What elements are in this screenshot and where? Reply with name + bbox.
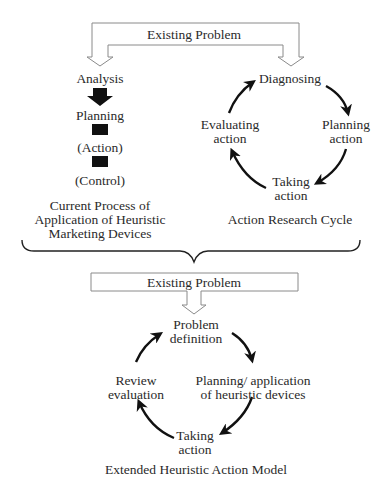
- step-action: (Action): [77, 141, 123, 155]
- arrow-diagnosing-to-planning: [326, 86, 348, 113]
- node-diagnosing: Diagnosing: [259, 72, 321, 86]
- arrow-taking-to-evaluating: [232, 151, 266, 188]
- node-evaluating-action-line2: action: [214, 132, 247, 146]
- node-planning-action-line1: Planning: [322, 118, 370, 132]
- action-research-cycle-caption: Action Research Cycle: [228, 213, 352, 227]
- arrow-planning-to-taking: [222, 397, 252, 433]
- step-control: (Control): [75, 174, 125, 188]
- node-problem-definition-line2: definition: [170, 332, 223, 346]
- step-planning: Planning: [76, 109, 124, 123]
- curly-brace: [22, 240, 360, 262]
- node-taking-action-line2-bottom: action: [179, 443, 212, 457]
- arrow-evaluating-to-diagnosing: [229, 82, 253, 113]
- arrow-taking-to-review: [139, 402, 174, 438]
- current-process-caption-line2: Application of Heuristic: [34, 213, 165, 227]
- existing-problem-label-top: Existing Problem: [147, 28, 241, 42]
- node-taking-action-line1: Taking: [272, 175, 309, 189]
- node-planning-application-line1: Planning/ application: [195, 374, 310, 388]
- step-analysis: Analysis: [76, 72, 123, 86]
- node-taking-action-line2: action: [275, 189, 308, 203]
- node-planning-application-line2: of heuristic devices: [201, 388, 306, 402]
- arrow-planning-to-taking: [317, 149, 346, 183]
- arrow-problem-to-planning: [232, 333, 252, 360]
- node-evaluating-action-line1: Evaluating: [201, 118, 259, 132]
- node-problem-definition-line1: Problem: [173, 318, 219, 332]
- node-taking-action-line1-bottom: Taking: [176, 429, 213, 443]
- diagram-canvas: Existing Problem Analysis Planning (Acti…: [0, 0, 388, 485]
- block-arrow-analysis-to-planning: [87, 88, 113, 106]
- current-process-caption-line1: Current Process of: [50, 199, 150, 213]
- extended-model-caption: Extended Heuristic Action Model: [105, 463, 287, 477]
- node-review-evaluation-line2: evaluation: [108, 388, 164, 402]
- block-square-1: [92, 124, 108, 135]
- diagram-shapes: [0, 0, 388, 485]
- current-process-caption-line3: Marketing Devices: [48, 227, 151, 241]
- block-square-2: [92, 156, 108, 167]
- node-review-evaluation-line1: Review: [115, 374, 156, 388]
- node-planning-action-line2: action: [330, 132, 363, 146]
- arrow-review-to-problem: [136, 334, 160, 362]
- existing-problem-label-bottom: Existing Problem: [147, 276, 241, 290]
